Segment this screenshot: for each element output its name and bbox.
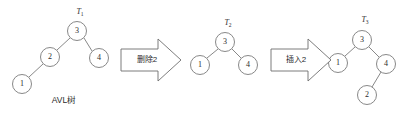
tree-t1: 3241T1: [13, 7, 109, 94]
tree-node-label-1: 1: [336, 58, 340, 67]
tree-node-label-3: 3: [75, 26, 79, 35]
tree-node-label-4: 4: [97, 53, 101, 62]
tree-node-label-3: 3: [223, 37, 227, 46]
tree-tag-subscript: 1: [81, 11, 84, 17]
tree-edge: [57, 38, 70, 50]
tree-edge: [29, 64, 43, 77]
tree-tag-subscript: 3: [366, 19, 369, 25]
tree-t2: 314T2: [191, 18, 258, 75]
operation-arrow-2: 插入2: [271, 39, 331, 81]
tree-edge: [84, 38, 92, 51]
tree-edge: [345, 47, 355, 56]
tree-node-label-2: 2: [365, 90, 369, 99]
tree-tag-subscript: 2: [229, 22, 232, 28]
tree-edge: [369, 47, 379, 57]
arrow-operation-label: 删除2: [137, 54, 158, 64]
tree-node-label-1: 1: [20, 79, 24, 88]
arrow-operation-label: 插入2: [286, 54, 307, 64]
tree-tag-label: T3: [361, 15, 368, 25]
tree-edge: [207, 49, 218, 58]
tree-t3: 3142T3: [329, 15, 396, 105]
tree-edge: [232, 49, 241, 58]
tree-node-label-3: 3: [360, 35, 364, 44]
figure-canvas: 3241T1314T23142T3删除2插入2AVL树: [0, 0, 409, 117]
tree-node-label-1: 1: [198, 60, 202, 69]
tree-node-label-2: 2: [48, 52, 52, 61]
tree-tag-label: T1: [76, 7, 83, 17]
avl-tree-transformation-figure: 3241T1314T23142T3删除2插入2AVL树: [0, 0, 409, 117]
figure-caption: AVL树: [52, 95, 76, 105]
tree-edge: [372, 72, 381, 87]
tree-node-label-4: 4: [246, 60, 250, 69]
tree-node-label-4: 4: [384, 59, 388, 68]
operation-arrow-1: 删除2: [121, 39, 181, 81]
tree-tag-label: T2: [224, 18, 231, 28]
